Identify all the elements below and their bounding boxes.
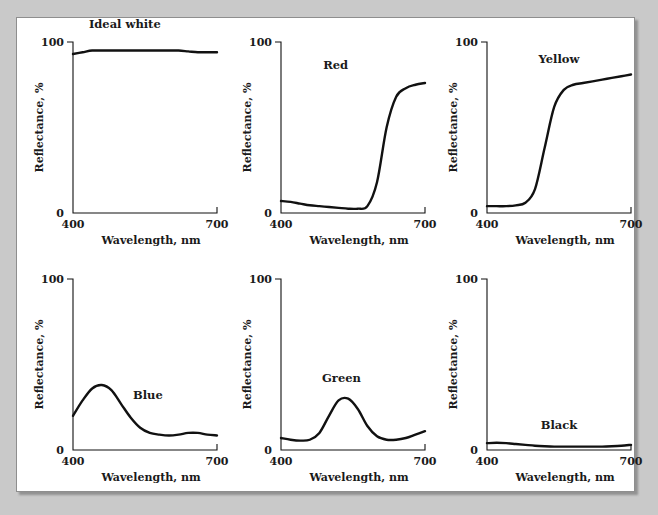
curve-red [281, 83, 425, 209]
x-axis-label: Wavelength, nm [100, 234, 201, 247]
x-axis-label: Wavelength, nm [514, 471, 615, 484]
x-tick-right: 700 [206, 455, 229, 468]
panel-grid: 1000400700Wavelength, nmReflectance, %Id… [17, 18, 634, 491]
y-axis-label: Reflectance, % [33, 319, 46, 409]
chart-panel-yellow: 1000400700Wavelength, nmReflectance, %Ye… [435, 24, 641, 261]
x-tick-left: 400 [270, 455, 293, 468]
chart-panel-blue: 1000400700Wavelength, nmReflectance, %Bl… [21, 261, 227, 498]
curve-green [281, 398, 425, 441]
axes [275, 279, 425, 450]
axes [67, 279, 217, 450]
curve-title: Red [323, 58, 348, 72]
curve-title: Black [541, 418, 579, 432]
chart-panel-ideal-white: 1000400700Wavelength, nmReflectance, %Id… [21, 24, 227, 261]
plot-area: 1000400700Wavelength, nmReflectance, %Ye… [435, 24, 641, 261]
x-tick-right: 700 [620, 455, 643, 468]
y-tick-top: 100 [41, 36, 64, 49]
y-axis-label: Reflectance, % [241, 82, 254, 172]
y-axis-label: Reflectance, % [241, 319, 254, 409]
curve-title: Yellow [538, 52, 581, 66]
chart-panel-green: 1000400700Wavelength, nmReflectance, %Gr… [229, 261, 435, 498]
x-axis-label: Wavelength, nm [308, 234, 409, 247]
plot-area: 1000400700Wavelength, nmReflectance, %Gr… [229, 261, 435, 498]
x-tick-left: 400 [476, 455, 499, 468]
x-tick-right: 700 [414, 455, 437, 468]
axes [481, 42, 631, 213]
y-tick-top: 100 [455, 273, 478, 286]
y-tick-top: 100 [249, 36, 272, 49]
x-axis-label: Wavelength, nm [514, 234, 615, 247]
x-tick-right: 700 [206, 218, 229, 231]
y-axis-label: Reflectance, % [447, 319, 460, 409]
plot-area: 1000400700Wavelength, nmReflectance, %Bl… [21, 261, 227, 498]
axes [67, 42, 217, 213]
curve-title: Green [322, 371, 362, 385]
plot-area: 1000400700Wavelength, nmReflectance, %Bl… [435, 261, 641, 498]
curve-ideal-white [73, 50, 217, 54]
axes [275, 42, 425, 213]
x-tick-right: 700 [620, 218, 643, 231]
curve-title: Ideal white [89, 17, 161, 31]
y-tick-top: 100 [41, 273, 64, 286]
y-axis-label: Reflectance, % [447, 82, 460, 172]
y-axis-label: Reflectance, % [33, 82, 46, 172]
figure-page: 1000400700Wavelength, nmReflectance, %Id… [16, 17, 635, 492]
x-tick-left: 400 [270, 218, 293, 231]
curve-black [487, 443, 631, 447]
x-axis-label: Wavelength, nm [308, 471, 409, 484]
y-tick-top: 100 [455, 36, 478, 49]
y-tick-top: 100 [249, 273, 272, 286]
x-axis-label: Wavelength, nm [100, 471, 201, 484]
plot-area: 1000400700Wavelength, nmReflectance, %Re… [229, 24, 435, 261]
curve-title: Blue [133, 388, 163, 402]
plot-area: 1000400700Wavelength, nmReflectance, %Id… [21, 24, 227, 261]
x-tick-left: 400 [476, 218, 499, 231]
x-tick-left: 400 [62, 218, 85, 231]
x-tick-left: 400 [62, 455, 85, 468]
curve-yellow [487, 74, 631, 206]
chart-panel-black: 1000400700Wavelength, nmReflectance, %Bl… [435, 261, 641, 498]
x-tick-right: 700 [414, 218, 437, 231]
chart-panel-red: 1000400700Wavelength, nmReflectance, %Re… [229, 24, 435, 261]
